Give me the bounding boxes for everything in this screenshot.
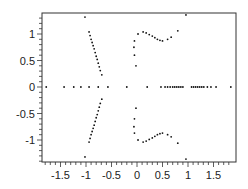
data-point: [84, 156, 86, 158]
data-point: [148, 139, 150, 141]
data-point: [195, 86, 197, 88]
data-point: [169, 86, 171, 88]
data-point: [199, 86, 201, 88]
data-point: [162, 40, 164, 42]
data-point: [89, 138, 91, 140]
data-point: [97, 62, 99, 64]
data-point: [177, 142, 179, 144]
data-point: [178, 86, 180, 88]
data-point: [197, 86, 199, 88]
data-point: [88, 31, 90, 33]
data-point: [154, 135, 156, 137]
data-point: [73, 86, 75, 88]
x-tick-label: 1: [185, 169, 191, 181]
data-point: [94, 121, 96, 123]
data-point: [137, 139, 139, 141]
data-point: [201, 86, 203, 88]
x-tick-label: 0: [134, 169, 140, 181]
data-point: [95, 55, 97, 57]
data-point: [88, 141, 90, 143]
data-point: [159, 39, 161, 41]
scatter-plot: -1.5-1-0.500.511.5 10.50-0.5-1: [0, 0, 248, 189]
y-tick-label: 1: [29, 28, 35, 40]
data-point: [93, 48, 95, 50]
data-point: [167, 86, 169, 88]
data-point: [133, 46, 135, 48]
data-point: [96, 114, 98, 116]
data-point: [98, 106, 100, 108]
x-tick-label: -0.5: [102, 169, 121, 181]
data-point: [98, 66, 100, 68]
data-point: [90, 134, 92, 136]
data-point: [191, 86, 193, 88]
data-point: [162, 132, 164, 134]
data-point: [99, 70, 101, 72]
data-point: [142, 141, 144, 143]
data-point: [154, 37, 156, 39]
data-point: [157, 134, 159, 136]
data-point: [151, 35, 153, 37]
data-point: [133, 126, 135, 128]
data-point: [145, 140, 147, 142]
data-point: [89, 35, 91, 37]
data-point: [167, 134, 169, 136]
y-axis: 10.50-0.5-1: [16, 18, 42, 161]
y-tick-label: 0: [29, 81, 35, 93]
data-point: [170, 36, 172, 38]
x-tick-label: -1: [81, 169, 91, 181]
data-point: [97, 86, 99, 88]
data-point: [142, 31, 144, 33]
x-tick-label: 1.5: [206, 169, 221, 181]
data-point: [94, 52, 96, 54]
x-axis: -1.5-1-0.500.511.5: [45, 162, 229, 181]
data-point: [91, 131, 93, 133]
data-point: [210, 86, 212, 88]
data-point: [96, 59, 98, 61]
data-point: [185, 14, 187, 16]
data-point: [93, 124, 95, 126]
data-point: [180, 86, 182, 88]
data-point: [157, 38, 159, 40]
data-points: [45, 14, 231, 160]
data-point: [137, 33, 139, 35]
data-point: [193, 86, 195, 88]
data-point: [145, 32, 147, 34]
data-point: [135, 107, 137, 109]
y-tick-label: -1: [25, 134, 35, 146]
data-point: [134, 118, 136, 120]
data-point: [177, 30, 179, 32]
data-point: [63, 86, 65, 88]
data-point: [203, 86, 205, 88]
data-point: [160, 86, 162, 88]
data-point: [146, 86, 148, 88]
data-point: [230, 86, 232, 88]
data-point: [148, 34, 150, 36]
data-point: [80, 86, 82, 88]
data-point: [90, 38, 92, 40]
data-point: [91, 42, 93, 44]
data-point: [167, 38, 169, 40]
data-point: [172, 86, 174, 88]
data-point: [101, 74, 103, 76]
data-point: [99, 103, 101, 105]
data-point: [92, 127, 94, 129]
data-point: [134, 40, 136, 42]
data-point: [126, 86, 128, 88]
data-point: [174, 86, 176, 88]
data-point: [164, 86, 166, 88]
data-point: [45, 86, 47, 88]
data-point: [170, 136, 172, 138]
data-point: [151, 137, 153, 139]
data-point: [92, 45, 94, 47]
y-tick-label: -0.5: [16, 108, 35, 120]
data-point: [97, 110, 99, 112]
data-point: [95, 117, 97, 119]
x-tick-label: 0.5: [155, 169, 170, 181]
data-point: [215, 86, 217, 88]
data-point: [107, 86, 109, 88]
data-point: [134, 54, 136, 56]
data-point: [84, 16, 86, 18]
data-point: [101, 98, 103, 100]
x-tick-label: -1.5: [51, 169, 70, 181]
data-point: [206, 86, 208, 88]
